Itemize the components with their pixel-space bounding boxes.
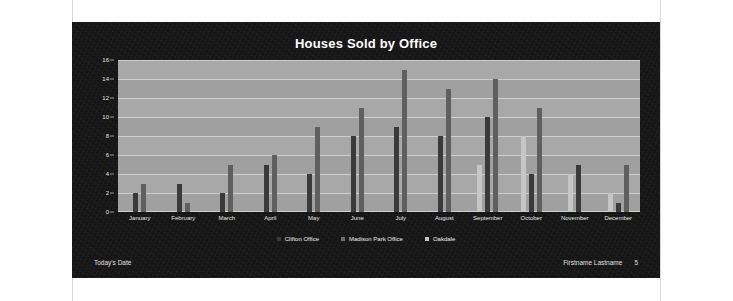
footer-right-group: Firstname Lastname 5	[563, 259, 638, 266]
bar	[220, 193, 225, 212]
bar	[272, 155, 277, 212]
y-axis-tick-mark	[110, 155, 114, 156]
footer-author-name: Firstname Lastname	[563, 259, 622, 266]
bar	[141, 184, 146, 213]
bar	[616, 203, 621, 213]
y-axis-tick-label: 8	[106, 133, 109, 139]
y-axis-tick-label: 2	[106, 190, 109, 196]
bar	[133, 193, 138, 212]
bar-group	[336, 60, 380, 212]
bar	[402, 70, 407, 213]
bar	[177, 184, 182, 213]
y-axis-tick-label: 6	[106, 152, 109, 158]
x-axis-label: January	[118, 215, 162, 221]
legend-label: Madison Park Office	[349, 236, 403, 242]
bar	[315, 127, 320, 213]
x-axis-label: May	[292, 215, 336, 221]
legend-swatch-icon	[425, 237, 429, 241]
bar	[477, 165, 482, 213]
bar-groups	[118, 60, 640, 212]
x-axis-label: December	[597, 215, 641, 221]
slide-footer: Today's Date Firstname Lastname 5	[94, 259, 638, 266]
bar	[446, 89, 451, 213]
x-axis-label: August	[423, 215, 467, 221]
y-axis-tick-label: 4	[106, 171, 109, 177]
bar-group	[249, 60, 293, 212]
y-axis-tick-label: 14	[102, 76, 109, 82]
bar	[493, 79, 498, 212]
bar	[529, 174, 534, 212]
legend-swatch-icon	[277, 237, 281, 241]
x-axis-label: September	[466, 215, 510, 221]
bar	[537, 108, 542, 213]
bar	[394, 127, 399, 213]
footer-date: Today's Date	[94, 259, 131, 266]
slide-title: Houses Sold by Office	[72, 36, 660, 51]
x-axis-label: June	[336, 215, 380, 221]
x-axis-label: October	[510, 215, 554, 221]
y-axis-tick-label: 10	[102, 114, 109, 120]
bar	[228, 165, 233, 213]
bar-group	[423, 60, 467, 212]
page-right-margin-rule	[660, 0, 661, 301]
bar-group	[292, 60, 336, 212]
x-axis-label: April	[249, 215, 293, 221]
presentation-slide: Houses Sold by Office 0246810121416 Janu…	[72, 22, 660, 278]
y-axis-tick-mark	[110, 98, 114, 99]
legend-item[interactable]: Clifton Office	[277, 236, 319, 242]
bar-group	[205, 60, 249, 212]
y-axis-tick-mark	[110, 79, 114, 80]
bar-group	[466, 60, 510, 212]
bar	[264, 165, 269, 213]
y-axis-tick-mark	[110, 117, 114, 118]
y-axis-tick-label: 12	[102, 95, 109, 101]
legend-item[interactable]: Oakdale	[425, 236, 455, 242]
bar-group	[162, 60, 206, 212]
plot-area	[118, 60, 640, 212]
y-axis-tick-mark	[110, 174, 114, 175]
bar-group	[597, 60, 641, 212]
y-axis: 0246810121416	[90, 60, 114, 212]
bar-group	[118, 60, 162, 212]
legend-label: Oakdale	[433, 236, 455, 242]
bar	[351, 136, 356, 212]
bar-group	[379, 60, 423, 212]
document-page: Houses Sold by Office 0246810121416 Janu…	[0, 0, 733, 301]
footer-page-number: 5	[634, 259, 638, 266]
legend-swatch-icon	[341, 237, 345, 241]
bar	[576, 165, 581, 213]
bar	[568, 174, 573, 212]
y-axis-tick-mark	[110, 193, 114, 194]
legend-item[interactable]: Madison Park Office	[341, 236, 403, 242]
bar-group	[553, 60, 597, 212]
y-axis-tick-mark	[110, 136, 114, 137]
bar	[608, 193, 613, 212]
bar-chart: 0246810121416 JanuaryFebruaryMarchAprilM…	[90, 60, 642, 232]
y-axis-tick-mark	[110, 212, 114, 213]
bar	[485, 117, 490, 212]
bar	[438, 136, 443, 212]
x-axis-labels: JanuaryFebruaryMarchAprilMayJuneJulyAugu…	[118, 215, 640, 221]
legend-label: Clifton Office	[285, 236, 319, 242]
chart-legend: Clifton OfficeMadison Park OfficeOakdale	[72, 236, 660, 242]
y-axis-tick-label: 0	[106, 209, 109, 215]
bar	[307, 174, 312, 212]
x-axis-label: November	[553, 215, 597, 221]
x-axis-label: February	[162, 215, 206, 221]
x-axis-label: March	[205, 215, 249, 221]
bar	[359, 108, 364, 213]
y-axis-tick-mark	[110, 60, 114, 61]
bar-group	[510, 60, 554, 212]
x-axis-label: July	[379, 215, 423, 221]
bar	[185, 203, 190, 213]
bar	[521, 136, 526, 212]
y-axis-tick-label: 16	[102, 57, 109, 63]
bar	[624, 165, 629, 213]
